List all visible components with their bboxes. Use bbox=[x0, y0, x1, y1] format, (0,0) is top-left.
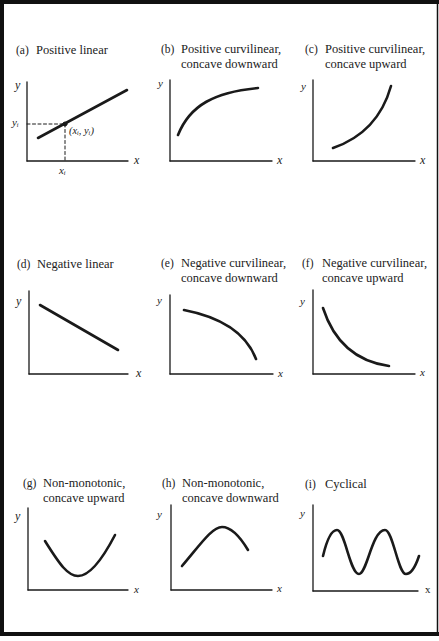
panel-d-x-label: x bbox=[136, 366, 141, 381]
panel-f-axes bbox=[313, 290, 415, 374]
panel-g-y-label: y bbox=[15, 509, 20, 524]
panel-g-title: (g)Non-monotonic,concave upward bbox=[23, 476, 125, 506]
panel-g-curve bbox=[45, 535, 115, 576]
panel-g-axes bbox=[28, 508, 128, 590]
panel-i-tag: (i) bbox=[305, 477, 325, 492]
panel-i-y-label: y bbox=[300, 507, 305, 519]
panel-c-title: (c)Positive curvilinear,concave upward bbox=[305, 42, 425, 72]
panel-e-curve bbox=[184, 310, 256, 359]
panel-h-title-line-2: concave downward bbox=[182, 491, 279, 505]
panel-a-title-line: Positive linear bbox=[36, 43, 108, 57]
panel-d-title: (d)Negative linear bbox=[17, 257, 114, 272]
panel-c-axes bbox=[313, 80, 415, 161]
panel-i-title-line: Cyclical bbox=[325, 477, 367, 491]
panel-b-y-label: y bbox=[158, 77, 163, 89]
panel-a-axes bbox=[27, 82, 128, 161]
panel-c-title-line-1: Positive curvilinear, bbox=[325, 42, 425, 56]
panel-a-y-label: y bbox=[15, 78, 20, 93]
panel-g-x-label: x bbox=[134, 583, 139, 595]
panel-f-x-label: x bbox=[420, 366, 425, 378]
panel-e-y-label: y bbox=[157, 294, 162, 306]
panel-f-title-line-2: concave upward bbox=[322, 271, 404, 285]
panel-d-tag: (d) bbox=[17, 257, 37, 272]
panel-i-curve bbox=[323, 530, 419, 574]
panel-e-title-line-2: concave downward bbox=[181, 271, 278, 285]
panel-d-axes bbox=[29, 291, 128, 374]
panel-e-axes bbox=[170, 295, 273, 374]
panel-i-x-label: x bbox=[425, 583, 431, 595]
panel-g-title-line-1: Non-monotonic, bbox=[43, 476, 125, 490]
panel-b-tag: (b) bbox=[161, 42, 181, 57]
panel-h-axes bbox=[171, 505, 272, 590]
panel-h-y-label: y bbox=[157, 508, 162, 520]
panel-f-curve bbox=[323, 308, 389, 366]
panel-h-title-line-1: Non-monotonic, bbox=[182, 476, 264, 490]
panel-i-title: (i)Cyclical bbox=[305, 477, 367, 492]
panel-a-tag: (a) bbox=[16, 43, 36, 58]
panel-h-curve bbox=[182, 527, 248, 566]
panel-f-tag: (f) bbox=[302, 256, 322, 271]
panel-a-point-label: (xᵢ, yᵢ) bbox=[69, 125, 94, 136]
panel-f-title: (f)Negative curvilinear,concave upward bbox=[302, 256, 427, 286]
panel-b-title-line-1: Positive curvilinear, bbox=[181, 42, 281, 56]
panel-h-x-label: x bbox=[277, 582, 282, 594]
panel-d-curve bbox=[40, 305, 118, 350]
panel-a-guides bbox=[27, 124, 65, 161]
panel-h-title: (h)Non-monotonic,concave downward bbox=[162, 476, 279, 506]
panel-a-x-label: x bbox=[134, 153, 139, 168]
panel-d-y-label: y bbox=[16, 294, 21, 309]
panel-g-tag: (g) bbox=[23, 476, 43, 491]
panel-c-y-label: y bbox=[301, 80, 306, 92]
panel-c-x-label: x bbox=[420, 153, 425, 168]
panel-e-tag: (e) bbox=[161, 256, 181, 271]
panel-e-title-line-1: Negative curvilinear, bbox=[181, 256, 286, 270]
panel-i-axes bbox=[313, 505, 418, 591]
panel-c-title-line-2: concave upward bbox=[325, 57, 407, 71]
panel-f-y-label: y bbox=[300, 295, 305, 307]
panel-c-curve bbox=[333, 86, 391, 148]
panel-a-y-tick-label: yᵢ bbox=[12, 116, 19, 128]
panel-d-title-line: Negative linear bbox=[37, 257, 114, 271]
panel-b-x-label: x bbox=[277, 153, 282, 168]
panel-b-title-line-2: concave downward bbox=[181, 57, 278, 71]
panel-e-x-label: x bbox=[278, 367, 283, 379]
panel-b-curve bbox=[178, 88, 258, 135]
figure-canvas bbox=[0, 0, 439, 641]
panel-e-title: (e)Negative curvilinear,concave downward bbox=[161, 256, 286, 286]
panel-f-title-line-1: Negative curvilinear, bbox=[322, 256, 427, 270]
panel-a-title: (a)Positive linear bbox=[16, 43, 108, 58]
panel-c-tag: (c) bbox=[305, 42, 325, 57]
panel-a-point bbox=[63, 122, 67, 126]
panel-g-title-line-2: concave upward bbox=[43, 491, 125, 505]
panel-h-tag: (h) bbox=[162, 476, 182, 491]
panel-a-x-tick-label: xᵢ bbox=[59, 164, 66, 176]
panel-b-title: (b)Positive curvilinear,concave downward bbox=[161, 42, 281, 72]
